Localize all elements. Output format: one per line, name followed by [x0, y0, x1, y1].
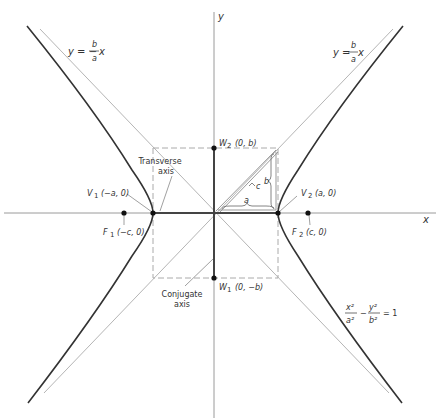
svg-text:x²: x² — [345, 303, 355, 312]
svg-text:(c, 0): (c, 0) — [306, 228, 327, 237]
focus-f2-point — [305, 210, 310, 215]
svg-text:y²: y² — [368, 303, 378, 312]
svg-text:x: x — [98, 46, 105, 57]
transverse-axis-label-line2: axis — [158, 167, 174, 176]
svg-text:2: 2 — [227, 142, 231, 150]
svg-text:(−a, 0): (−a, 0) — [101, 189, 129, 198]
asymptote-negative-label: y = − b a x — [67, 40, 105, 63]
svg-text:−: − — [360, 309, 367, 318]
svg-text:a: a — [92, 54, 97, 63]
svg-text:V: V — [87, 189, 93, 198]
svg-text:y =: y = — [332, 47, 350, 58]
svg-text:F: F — [292, 228, 297, 237]
hyperbola-right-branch — [278, 26, 403, 403]
c-brace — [249, 183, 255, 186]
hyperbola-diagram: y x y = − b a x y = b a x Transverse axi… — [0, 0, 446, 420]
b-segment-label: b — [264, 177, 269, 186]
f1-label: F 1 (−c, 0) — [103, 228, 145, 239]
svg-text:1: 1 — [94, 192, 98, 200]
vertex-v2-point — [275, 210, 280, 215]
svg-text:(0, b): (0, b) — [235, 139, 257, 148]
svg-text:b²: b² — [369, 316, 378, 325]
hyperbola-equation: x² a² − y² b² = 1 — [345, 303, 397, 325]
transverse-leader — [160, 176, 172, 211]
transverse-axis-label-line1: Transverse — [137, 157, 181, 166]
y-axis-label: y — [217, 11, 225, 22]
asymptote-positive-label: y = b a x — [332, 41, 364, 64]
c-segment-label: c — [256, 182, 261, 191]
svg-text:1: 1 — [110, 231, 114, 239]
f2-label: F 2 (c, 0) — [292, 228, 327, 239]
w1-label: W 1 (0, −b) — [219, 283, 263, 294]
svg-text:(0, −b): (0, −b) — [235, 283, 263, 292]
conjugate-leader — [185, 259, 213, 286]
hyperbola-left-branch — [27, 26, 153, 403]
w2-point — [211, 145, 216, 150]
svg-text:b: b — [92, 40, 97, 49]
svg-text:1: 1 — [227, 286, 231, 294]
svg-text:2: 2 — [308, 192, 312, 200]
focus-f1-point — [121, 210, 126, 215]
conjugate-axis-label-line2: axis — [174, 300, 190, 309]
asymptote-positive — [44, 29, 393, 393]
x-axis-label: x — [422, 214, 429, 225]
svg-text:a²: a² — [346, 316, 355, 325]
vertex-v1-point — [150, 210, 155, 215]
svg-text:= 1: = 1 — [383, 309, 397, 318]
svg-text:x: x — [357, 47, 364, 58]
w1-point — [211, 275, 216, 280]
svg-text:(−c, 0): (−c, 0) — [117, 228, 145, 237]
v2-label: V 2 (a, 0) — [301, 189, 336, 200]
conjugate-axis-label-line1: Conjugate — [162, 290, 203, 299]
svg-text:2: 2 — [299, 231, 303, 239]
svg-text:b: b — [351, 41, 356, 50]
svg-text:V: V — [301, 189, 307, 198]
svg-text:a: a — [351, 55, 356, 64]
a-segment-label: a — [244, 196, 249, 205]
v1-label: V 1 (−a, 0) — [87, 189, 129, 200]
f2-leader — [309, 215, 310, 225]
svg-text:F: F — [103, 228, 108, 237]
svg-text:(a, 0): (a, 0) — [315, 189, 336, 198]
